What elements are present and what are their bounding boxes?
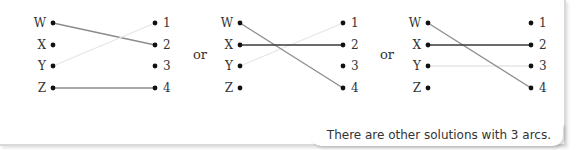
node-label-2: 2 <box>163 38 171 52</box>
node-label-x: X <box>412 38 421 52</box>
node-label-x: X <box>224 38 233 52</box>
node-dot <box>341 43 346 48</box>
node-label-w: W <box>34 16 47 30</box>
node-dot <box>529 43 534 48</box>
node-dot <box>238 64 243 69</box>
diagram-2: W X Y Z 1 2 3 4 <box>221 16 359 95</box>
node-dot <box>529 86 534 91</box>
node-dot <box>153 21 158 26</box>
node-label-4: 4 <box>539 81 547 95</box>
right-nodes: 1 2 3 4 <box>529 16 547 95</box>
node-dot <box>341 21 346 26</box>
node-dot <box>51 86 56 91</box>
node-dot <box>238 21 243 26</box>
node-dot <box>238 43 243 48</box>
node-label-y: Y <box>412 59 422 73</box>
node-label-y: Y <box>224 59 234 73</box>
node-dot <box>51 21 56 26</box>
node-label-w: W <box>221 16 234 30</box>
node-label-3: 3 <box>351 59 359 73</box>
node-dot <box>426 43 431 48</box>
node-label-1: 1 <box>163 16 171 30</box>
right-nodes: 1 2 3 4 <box>153 16 171 95</box>
node-dot <box>238 86 243 91</box>
node-label-y: Y <box>37 59 47 73</box>
node-dot <box>426 64 431 69</box>
callout-note: There are other solutions with 3 arcs. <box>311 124 563 146</box>
right-nodes: 1 2 3 4 <box>341 16 359 95</box>
node-label-2: 2 <box>539 38 547 52</box>
left-nodes: W X Y Z <box>409 16 431 95</box>
left-nodes: W X Y Z <box>221 16 243 95</box>
node-label-3: 3 <box>539 59 547 73</box>
node-label-z: Z <box>225 81 233 95</box>
or-separator-1: or <box>193 47 208 62</box>
diagram-3: W X Y Z 1 2 3 4 <box>409 16 547 95</box>
node-dot <box>153 86 158 91</box>
node-dot <box>529 64 534 69</box>
node-dot <box>341 64 346 69</box>
node-dot <box>51 43 56 48</box>
left-nodes: W X Y Z <box>34 16 56 95</box>
node-dot <box>426 21 431 26</box>
node-dot <box>426 86 431 91</box>
node-dot <box>51 64 56 69</box>
arc-w-2 <box>53 23 155 45</box>
node-label-1: 1 <box>539 16 547 30</box>
diagram-1: W X Y Z 1 2 3 4 <box>34 16 171 95</box>
arc-w-4 <box>428 23 531 88</box>
node-label-1: 1 <box>351 16 359 30</box>
node-label-3: 3 <box>163 59 171 73</box>
node-label-z: Z <box>413 81 421 95</box>
node-label-2: 2 <box>351 38 359 52</box>
node-label-z: Z <box>38 81 46 95</box>
node-dot <box>153 64 158 69</box>
node-label-x: X <box>37 38 46 52</box>
node-dot <box>153 43 158 48</box>
arc-w-4 <box>240 23 343 88</box>
or-separator-2: or <box>380 47 395 62</box>
node-dot <box>529 21 534 26</box>
node-label-w: W <box>409 16 422 30</box>
node-dot <box>341 86 346 91</box>
node-label-4: 4 <box>351 81 359 95</box>
arc-y-1 <box>53 23 155 66</box>
node-label-4: 4 <box>163 81 171 95</box>
